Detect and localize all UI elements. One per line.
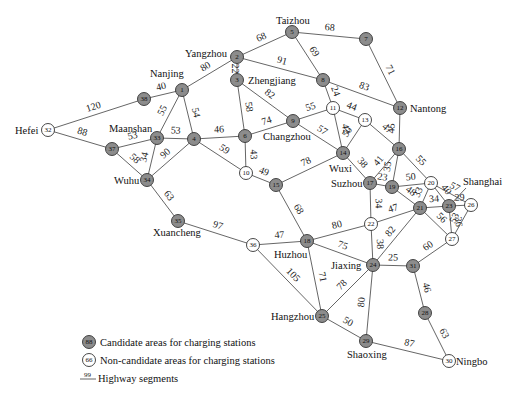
city-label-shanghai: Shanghai	[463, 176, 502, 187]
node-id: 6	[243, 132, 247, 140]
node-id: 15	[273, 181, 281, 189]
city-label-huzhou: Huzhou	[274, 249, 308, 260]
segment-weight-label: 91	[276, 54, 289, 67]
segment-weight-label: 78	[299, 154, 313, 168]
node-id: 28	[422, 309, 430, 317]
segment-weight-label: 78	[334, 277, 349, 292]
legend-noncandidate: 66 Non-candidate areas for charging stat…	[83, 354, 275, 367]
segment-weight-label: 55	[304, 100, 317, 114]
legend: 88 Candidate areas for charging stations…	[80, 336, 275, 385]
node-id: 13	[362, 116, 370, 124]
node-id: 33	[154, 134, 162, 142]
candidate-node-7: 7	[360, 33, 373, 46]
segment-weight-label: 82	[383, 224, 398, 239]
node-id: 29	[363, 337, 371, 345]
highway-segment-31-28: 46	[413, 266, 434, 313]
node-id: 35	[175, 217, 183, 225]
segment-weight-label: 45	[385, 123, 396, 133]
segment-weight-label: 71	[384, 63, 398, 77]
segment-line	[253, 241, 307, 245]
node-id: 23	[446, 202, 454, 210]
segment-line	[413, 239, 452, 266]
segment-weight-label: 60	[420, 238, 434, 253]
segment-weight-label: 50	[405, 171, 416, 183]
segment-weight-label: 55	[155, 103, 169, 117]
candidate-node-3: 3	[231, 74, 244, 87]
candidate-node-35: 35	[172, 215, 185, 228]
noncandidate-node-11: 11	[327, 102, 340, 115]
candidate-node-1: 1	[176, 84, 189, 97]
highway-segment-28-30: 63	[425, 313, 452, 361]
noncandidate-node-30: 30	[443, 355, 456, 368]
segment-weight-label: 54	[190, 106, 203, 118]
node-id: 9	[291, 117, 295, 125]
segment-weight-label: 49	[257, 164, 270, 178]
node-id: 27	[449, 235, 457, 243]
city-label-xuancheng: Xuancheng	[153, 227, 202, 238]
segment-weight-label: 74	[260, 114, 273, 127]
segment-weight-label: 80	[331, 218, 343, 231]
candidate-node-14: 14	[337, 147, 350, 160]
segment-weight-label: 50	[341, 314, 355, 329]
noncandidate-node-20: 20	[425, 177, 438, 190]
segment-line	[237, 80, 245, 136]
candidate-node-33: 33	[151, 132, 164, 145]
node-id: 3	[235, 76, 239, 84]
segment-weight-label: 82	[263, 86, 278, 101]
candidate-node-16: 16	[393, 143, 406, 156]
node-id: 11	[330, 104, 337, 112]
node-id: 22	[368, 220, 376, 228]
node-id: 24	[370, 261, 378, 269]
node-id: 36	[250, 241, 258, 249]
city-label-ningbo: Ningbo	[456, 356, 488, 367]
candidate-node-12: 12	[394, 102, 407, 115]
segment-weight-label: 47	[386, 201, 399, 215]
node-id: 14	[340, 149, 348, 157]
segment-line	[194, 139, 246, 173]
candidate-node-28: 28	[419, 307, 432, 320]
segment-line	[292, 32, 366, 39]
city-label-hefei: Hefei	[15, 125, 38, 136]
city-label-jiaxing: Jiaxing	[331, 260, 362, 271]
node-id: 20	[428, 179, 436, 187]
highway-segment-36-18: 47	[253, 229, 307, 245]
noncandidate-node-13: 13	[359, 114, 372, 127]
node-id: 21	[417, 204, 425, 212]
segment-weight-label: 68	[254, 30, 268, 44]
legend-noncandidate-label: Non-candidate areas for charging station…	[100, 355, 275, 366]
city-label-zhengjiang: Zhengjiang	[248, 75, 297, 86]
highway-network-diagram: 1208840805554535358349063465968229158826…	[0, 0, 516, 399]
highway-segment-3-6: 58	[237, 80, 256, 136]
highway-segment-18-25: 71	[307, 241, 329, 316]
segment-weight-label: 24	[329, 85, 343, 98]
node-id: 37	[109, 145, 117, 153]
segment-weight-label: 34	[373, 198, 384, 208]
segment-weight-label: 25	[388, 251, 398, 262]
segment-weight-label: 34	[429, 193, 440, 205]
node-id: 8	[321, 76, 325, 84]
candidate-node-6: 6	[239, 130, 252, 143]
city-label-hangzhou: Hangzhou	[271, 311, 315, 322]
segment-weight-label: 46	[421, 281, 434, 293]
city-label-taizhou: Taizhou	[276, 15, 310, 26]
node-id: 19	[389, 183, 397, 191]
highway-segment-34-4: 90	[147, 139, 194, 180]
segment-weight-label: 71	[316, 271, 329, 283]
node-id: 5	[290, 28, 294, 36]
candidate-node-18: 18	[301, 235, 314, 248]
segment-weight-label: 38	[355, 155, 370, 170]
node-id: 10	[243, 169, 251, 177]
segment-line	[147, 139, 194, 180]
segment-weight-label: 58	[243, 101, 255, 112]
segment-weight-label: 38	[375, 239, 386, 250]
legend-candidate-label: Candidate areas for charging stations	[100, 337, 256, 348]
highway-segment-4-6: 46	[194, 123, 245, 139]
highway-segment-1-2: 80	[182, 57, 237, 90]
legend-candidate: 88 Candidate areas for charging stations	[83, 336, 256, 349]
candidate-node-23: 23	[443, 200, 456, 213]
legend-segment-symbol: 99	[84, 371, 92, 379]
segment-weight-label: 59	[217, 142, 231, 157]
segment-line	[366, 265, 373, 341]
segment-weight-label: 55	[414, 153, 429, 168]
segment-weight-label: 40	[155, 80, 167, 93]
